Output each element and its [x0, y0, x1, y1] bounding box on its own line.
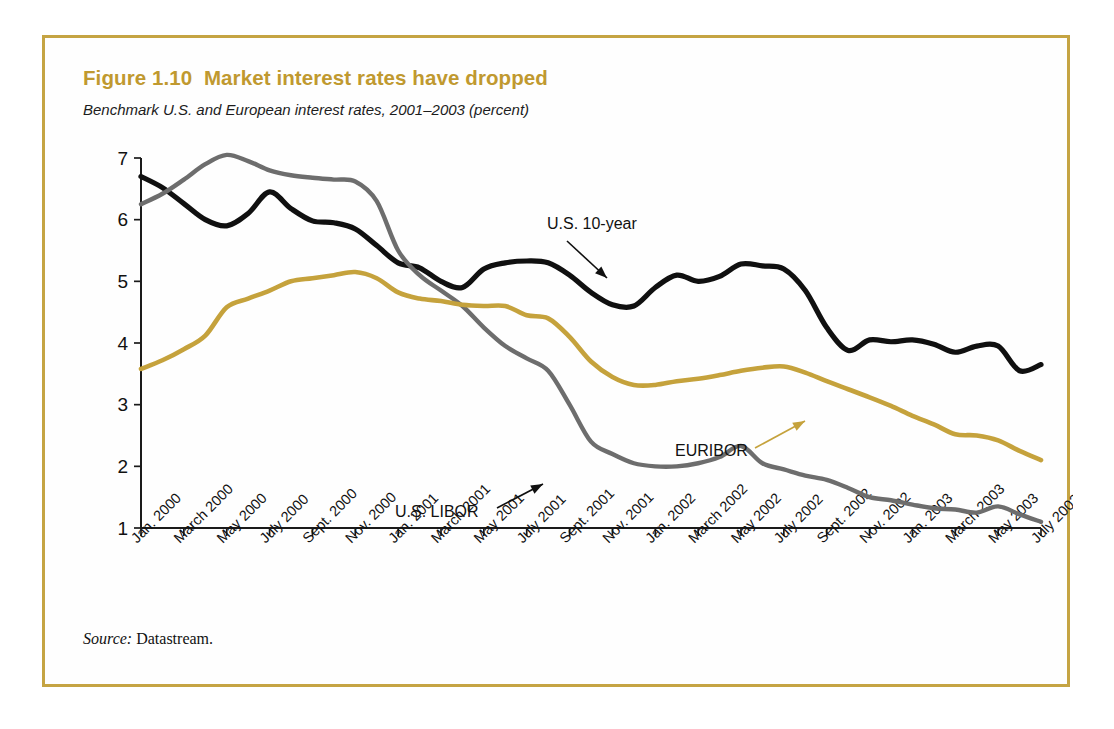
y-axis-tick-label: 6: [117, 209, 128, 230]
y-axis-tick-label: 7: [117, 148, 128, 169]
annotation-label-us-libor: U.S. LIBOR: [395, 503, 479, 520]
chart-axes: 1234567Jan. 2000March 2000May 2000July 2…: [117, 148, 1073, 547]
y-axis-tick-label: 3: [117, 394, 128, 415]
figure-frame: Figure 1.10 Market interest rates have d…: [42, 35, 1070, 687]
source-value: Datastream.: [132, 630, 213, 647]
annotation-arrowhead-us-libor: [530, 484, 543, 494]
annotation-label-euribor: EURIBOR: [675, 442, 748, 459]
series-line-u-s-10-year: [141, 177, 1041, 372]
chart-series: [141, 155, 1041, 522]
y-axis-tick-label: 2: [117, 456, 128, 477]
source-note: Source: Datastream.: [83, 630, 213, 648]
y-axis-tick-label: 1: [117, 518, 128, 539]
y-axis-tick-label: 4: [117, 333, 128, 354]
annotation-arrowhead-euribor: [792, 421, 805, 431]
source-label: Source:: [83, 630, 132, 647]
annotation-label-us-10-year: U.S. 10-year: [547, 215, 637, 232]
line-chart: 1234567Jan. 2000March 2000May 2000July 2…: [45, 38, 1073, 690]
series-line-euribor: [141, 272, 1041, 460]
y-axis-tick-label: 5: [117, 271, 128, 292]
